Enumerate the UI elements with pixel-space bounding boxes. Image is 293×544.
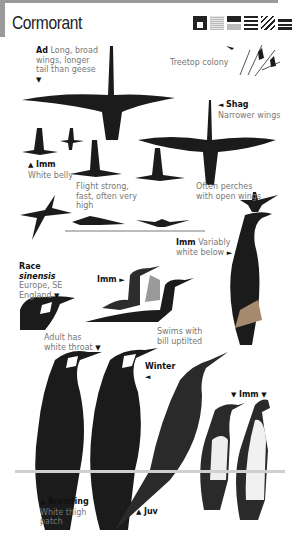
treetop-colony-label: Treetop colony bbox=[170, 58, 229, 68]
juv-label: ▲ Juv bbox=[136, 507, 158, 518]
imm-below-label: Imm Variably white below ► bbox=[176, 238, 236, 258]
arrow-down-icon: ▼ bbox=[231, 391, 236, 399]
arrow-right-icon: ► bbox=[119, 276, 124, 284]
flight-description-label: Flight strong, fast, often very high bbox=[76, 182, 138, 211]
imm-flight-illustration bbox=[22, 128, 58, 155]
arrow-down-icon: ▼ bbox=[261, 391, 266, 399]
arrow-up-icon: ▲ bbox=[40, 498, 45, 506]
glide-illustration bbox=[136, 219, 190, 227]
flight-high-illustration bbox=[135, 148, 185, 181]
imm-flight-label: ▲ ImmWhite belly bbox=[28, 160, 78, 180]
arrow-right-icon: ► bbox=[227, 249, 232, 257]
arrow-up-icon: ▲ bbox=[28, 161, 33, 169]
imm-swimming-label: Imm ► bbox=[97, 275, 125, 286]
arrow-left-icon: ◄ bbox=[218, 101, 223, 109]
race-sinensis-label: Race sinensisEurope, SE England ▼ bbox=[19, 262, 74, 301]
low-flight-illustration bbox=[72, 216, 125, 225]
water-line bbox=[65, 230, 205, 232]
arrow-down-icon: ▼ bbox=[36, 76, 41, 84]
perches-label: Often perches with open wings bbox=[196, 182, 266, 201]
race-sinensis-head-illustration bbox=[20, 296, 75, 330]
small-flight-illustration bbox=[60, 128, 84, 150]
breeding-label: ▲ BreedingWhite thigh patch bbox=[40, 497, 90, 527]
shag-label: ◄ ShagNarrower wings bbox=[218, 100, 290, 120]
adult-label: Ad Long, broad wings, longer tail than g… bbox=[36, 46, 98, 85]
swims-label: Swims with bill uptilted bbox=[157, 327, 213, 346]
arrow-down-icon: ▼ bbox=[95, 344, 100, 352]
side-flight-illustration bbox=[20, 195, 72, 240]
imm-standing-label: ▼ Imm ▼ bbox=[231, 390, 267, 401]
winter-label: Winter◄ bbox=[145, 362, 175, 382]
arrow-down-icon: ▼ bbox=[54, 292, 59, 300]
arrow-up-icon: ▲ bbox=[136, 508, 141, 516]
ground-line bbox=[15, 470, 285, 473]
white-throat-label: Adult has white throat ▼ bbox=[44, 333, 104, 353]
arrow-left-icon: ◄ bbox=[145, 373, 150, 381]
